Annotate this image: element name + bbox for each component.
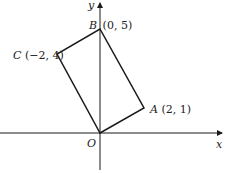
origin-label: O <box>87 138 96 149</box>
point-b-label: B (0, 5) <box>89 20 132 31</box>
y-axis-label: y <box>88 0 94 11</box>
point-b-name: B <box>89 19 97 32</box>
point-b-coords: (0, 5) <box>103 19 133 32</box>
point-a-name: A <box>150 103 158 116</box>
point-a-coords: (2, 1) <box>161 103 191 116</box>
x-axis-label: x <box>216 139 222 150</box>
point-c-coords: (−2, 4) <box>25 49 64 62</box>
point-a-label: A (2, 1) <box>150 104 191 115</box>
point-c-name: C <box>13 49 21 62</box>
point-c-label: C (−2, 4) <box>13 50 64 61</box>
